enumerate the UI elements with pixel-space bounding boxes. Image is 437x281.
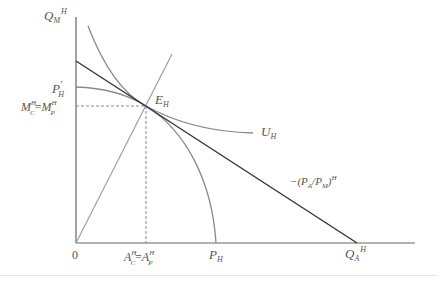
origin-label: 0 — [72, 248, 78, 262]
price-ratio-label: −(PA/PM)H — [290, 174, 337, 190]
p-prime-label: P′H — [51, 79, 65, 99]
indifference-curve — [88, 26, 253, 133]
production-frontier-curve — [76, 87, 216, 243]
bottom-divider — [0, 275, 437, 276]
price-line — [76, 61, 357, 243]
y-axis-label: QMH — [44, 7, 68, 25]
a-equality-label: AHC=AHP — [123, 249, 155, 267]
indifference-label: UH — [261, 124, 277, 141]
m-equality-label: MHC=MHP — [20, 99, 58, 117]
consumption-ray — [76, 54, 172, 243]
equilibrium-diagram: QMH P′H MHC=MHP EH UH −(PA/PM)H 0 AHC=AH… — [0, 0, 437, 281]
equilibrium-label: EH — [154, 92, 170, 109]
x-axis-label: QAH — [345, 245, 367, 263]
p-h-label: PH — [208, 247, 224, 264]
